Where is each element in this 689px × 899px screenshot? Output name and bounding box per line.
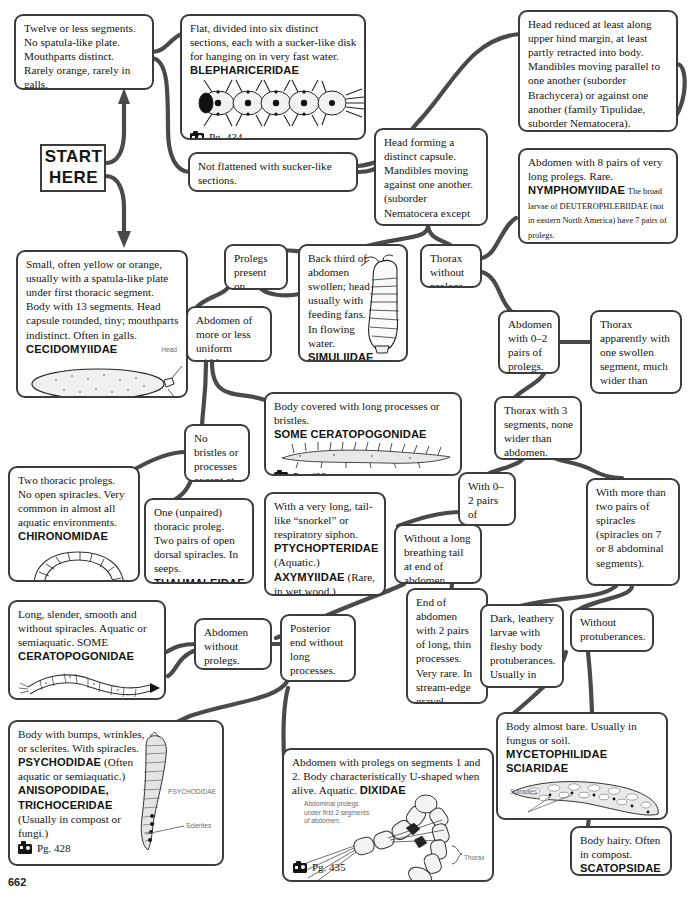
- page-number-text: Pg. 434: [209, 131, 243, 140]
- node-text: Thorax apparently with one swollen segme…: [600, 318, 670, 394]
- family-name-2: ANISOPODIDAE, TRICHOCERIDAE: [18, 784, 113, 810]
- node-thorax-without-prolegs: Thorax without prolegs.: [420, 244, 482, 288]
- family-name: BLEPHARICERIDAE: [190, 64, 299, 76]
- node-thorax-3-segments: Thorax with 3 segments, none wider than …: [494, 396, 582, 460]
- node-text: One (unpaired) thoracic proleg. Two pair…: [154, 506, 238, 574]
- node-text: Body with bumps, wrinkles, or sclerites.…: [18, 728, 144, 754]
- callout-spiracles: Spiracles: [510, 788, 537, 796]
- node-some-ceratopogonidae-smooth: Long, slender, smooth and without spirac…: [8, 600, 166, 700]
- nymphomyiidae-larva-illustration: [528, 242, 669, 244]
- larva-art: [528, 242, 678, 244]
- callout-head: Head: [161, 346, 177, 354]
- node-text: Abdomen of more or less uniform width.: [196, 314, 252, 362]
- camera-icon: [18, 844, 32, 854]
- start-here-box: STARTHERE: [40, 144, 106, 192]
- page-number-text: Pg. 435: [312, 861, 346, 875]
- node-with-0-2-spiracles: With 0–2 pairs of spiracles.: [458, 472, 516, 526]
- node-cecidomyiidae: Small, often yellow or orange, usually w…: [16, 250, 188, 398]
- node-text: Small, often yellow or orange, usually w…: [26, 258, 178, 341]
- node-scatopsidae: Body hairy. Often in compost. SCATOPSIDA…: [570, 826, 672, 876]
- node-text: Posterior end without long processes. Co…: [290, 622, 343, 682]
- node-nymphomyiidae: Abdomen with 8 pairs of very long proleg…: [518, 148, 678, 244]
- camera-icon: [293, 863, 307, 873]
- node-text: Thorax without prolegs.: [430, 252, 466, 288]
- simuliidae-larva-illustration: [359, 254, 403, 358]
- node-dixidae: Abdomen with prolegs on segments 1 and 2…: [282, 748, 494, 882]
- node-text: Head forming a distinct capsule. Mandibl…: [384, 136, 473, 226]
- family-name: CECIDOMYIIDAE: [26, 343, 117, 355]
- node-ptychopteridae-axymyiidae: With a very long, tail-like “snorkel” or…: [264, 492, 386, 596]
- start-here-label: STARTHERE: [45, 147, 102, 188]
- node-text: Two thoracic prolegs. No open spiracles.…: [18, 474, 125, 528]
- node-text: Body hairy. Often in compost.: [580, 834, 660, 860]
- key-page: STARTHERE Twelve or less segments. No sp…: [0, 0, 689, 899]
- family-name: SOME CERATOPOGONIDAE: [274, 428, 427, 440]
- node-text: Thorax with 3 segments, none wider than …: [504, 404, 573, 458]
- node-text: Without protuberances.: [580, 616, 646, 642]
- callout-abdominal-prolegs: Abdominal prolegsunder first 2 segmentso…: [304, 800, 390, 826]
- node-head-reduced: Head reduced at least along upper hind m…: [518, 10, 678, 132]
- family-note: (Aquatic.): [274, 556, 320, 568]
- node-text: Dark, leathery larvae with fleshy body p…: [490, 612, 556, 688]
- family-name-2: AXYMYIIDAE: [274, 571, 345, 583]
- node-text: Abdomen without prolegs.: [204, 626, 248, 666]
- family-name: MYCETOPHILIDAE: [506, 748, 607, 760]
- node-without-protuberances: Without protuberances.: [570, 608, 654, 652]
- node-text: Twelve or less segments. No spatula-like…: [24, 22, 136, 90]
- node-tanyderidae: End of abdomen with 2 pairs of long, thi…: [406, 588, 488, 704]
- page-number-text: Pg. 428: [37, 842, 71, 856]
- node-abdomen-without-prolegs: Abdomen without prolegs.: [194, 618, 272, 670]
- node-text: Abdomen with 8 pairs of very long proleg…: [528, 156, 663, 182]
- larva-art: [190, 77, 366, 129]
- node-text: Not flattened with sucker-like sections.: [198, 160, 332, 186]
- node-abdomen-0-2-prolegs: Abdomen with 0–2 pairs of prolegs.: [498, 310, 560, 374]
- family-name: CERATOPOGONIDAE: [18, 650, 134, 662]
- camera-icon: [274, 472, 288, 476]
- node-not-flattened: Not flattened with sucker-like sections.: [188, 152, 358, 192]
- node-text: Prolegs present on thorax.: [234, 252, 268, 290]
- callout-thorax: Thorax: [464, 854, 485, 862]
- chironomidae-larva-illustration: [18, 546, 138, 582]
- page-reference: Pg. 435: [293, 861, 346, 875]
- node-bibionidae: Dark, leathery larvae with fleshy body p…: [480, 604, 564, 688]
- node-text: Body almost bare. Usually in fungus or s…: [506, 720, 637, 746]
- callout-spatula-plate: Spatula-likeplate: [137, 396, 179, 398]
- node-text: Without a long breathing tail at end of …: [404, 532, 471, 584]
- node-without-long-breathing-tail: Without a long breathing tail at end of …: [394, 524, 482, 584]
- family-name: PSYCHODIDAE: [18, 756, 101, 768]
- cecidomyiidae-larva-illustration: Head Spatula-likeplate: [26, 356, 179, 398]
- family-name: THAUMALEIDAE: [154, 577, 245, 584]
- node-text: With more than two pairs of spiracles (s…: [596, 486, 666, 569]
- mycetophilidae-larva-illustration: [506, 776, 666, 820]
- family-note-2: (Usually in compost or fungi.): [18, 813, 121, 839]
- family-name: SCATOPSIDAE: [580, 862, 661, 874]
- node-blepharoceridae: Flat, divided into six distinct sections…: [180, 14, 366, 140]
- page-reference: Pg. 434: [190, 131, 357, 140]
- camera-icon: [190, 133, 204, 140]
- callout-sclerites: Sclerites: [186, 822, 211, 830]
- node-no-bristles: No bristles or processes except at tip o…: [184, 424, 250, 482]
- node-more-than-two-spiracles: With more than two pairs of spiracles (s…: [586, 478, 680, 586]
- family-name: NYMPHOMYIIDAE: [528, 184, 625, 196]
- node-mycetophilidae-sciaridae: Body almost bare. Usually in fungus or s…: [496, 712, 668, 820]
- ceratopogonidae-smooth-larva-illustration: [18, 665, 160, 699]
- node-text: End of abdomen with 2 pairs of long, thi…: [416, 596, 472, 704]
- family-name: CHIRONOMIDAE: [18, 530, 108, 542]
- blepharoceridae-larva-illustration: [190, 77, 357, 129]
- sclerites-leader-line: [146, 822, 186, 836]
- page-reference: Pg. 429: [274, 470, 453, 476]
- node-thorax-one-swollen-segment: Thorax apparently with one swollen segme…: [590, 310, 682, 394]
- node-posterior-end-no-processes: Posterior end without long processes. Co…: [280, 614, 356, 682]
- node-simuliidae: Back third of abdomen swollen; head usua…: [298, 244, 408, 362]
- node-text: Flat, divided into six distinct sections…: [190, 22, 356, 62]
- node-text: Body covered with long processes or bris…: [274, 400, 440, 426]
- node-psychodidae-anisopodidae-trichoceridae: Body with bumps, wrinkles, or sclerites.…: [8, 720, 224, 866]
- node-text: With a very long, tail-like “snorkel” or…: [274, 500, 373, 540]
- node-thaumaleidae: One (unpaired) thoracic proleg. Two pair…: [144, 498, 254, 584]
- node-some-ceratopogonidae-bristly: Body covered with long processes or bris…: [264, 392, 462, 476]
- node-twelve-or-less-segments: Twelve or less segments. No spatula-like…: [14, 14, 154, 90]
- larva-art: [26, 356, 186, 398]
- node-abdomen-uniform-width: Abdomen of more or less uniform width.: [186, 306, 272, 362]
- node-text: Head reduced at least along upper hind m…: [528, 18, 660, 129]
- node-head-capsule: Head forming a distinct capsule. Mandibl…: [374, 128, 488, 226]
